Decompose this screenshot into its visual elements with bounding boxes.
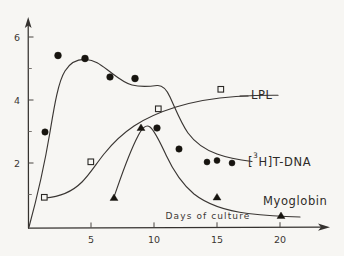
x-tick-label-15: 15: [211, 234, 223, 245]
series-label-lpl: LPL: [251, 88, 273, 102]
markers-lpl: [42, 87, 224, 201]
data-point-lpl: [218, 87, 224, 93]
data-point-t-dna: [82, 55, 89, 62]
data-point-t-dna: [214, 158, 220, 164]
data-point-t-dna: [176, 146, 182, 152]
y-tick-label-2: 2: [14, 158, 20, 169]
line-chart: 6 4 2 5 10 15 20 Days of culture: [0, 0, 344, 256]
data-point-lpl: [42, 195, 48, 201]
x-tick-label-5: 5: [88, 234, 94, 245]
series-label-myoglobin: Myoglobin: [263, 194, 327, 208]
data-point-t-dna: [42, 129, 48, 135]
data-point-myoglobin: [213, 194, 221, 201]
data-point-lpl: [88, 159, 94, 165]
t-dna-label-suffix: H]T-DNA: [258, 155, 311, 169]
y-tick-label-6: 6: [14, 32, 20, 43]
data-point-t-dna: [154, 125, 161, 132]
x-tick-label-20: 20: [274, 234, 286, 245]
figure-container: 6 4 2 5 10 15 20 Days of culture: [0, 0, 344, 256]
curve-t-dna: [29, 59, 252, 227]
data-point-t-dna: [229, 160, 235, 166]
x-tick-label-10: 10: [148, 234, 160, 245]
x-tick-labels: 5 10 15 20: [88, 234, 286, 245]
x-axis-title: Days of culture: [166, 211, 251, 221]
data-point-t-dna: [55, 52, 62, 59]
x-axis-line: [29, 227, 323, 228]
series-label-t-dna: [3H]T-DNA: [248, 151, 311, 170]
data-point-lpl: [156, 106, 162, 112]
y-tick-label-4: 4: [14, 95, 20, 106]
data-point-myoglobin: [110, 194, 118, 201]
data-point-t-dna: [107, 74, 114, 81]
data-point-myoglobin: [277, 212, 285, 219]
y-tick-labels: 6 4 2: [14, 32, 20, 169]
data-point-t-dna: [132, 75, 139, 82]
data-point-t-dna: [204, 159, 210, 165]
